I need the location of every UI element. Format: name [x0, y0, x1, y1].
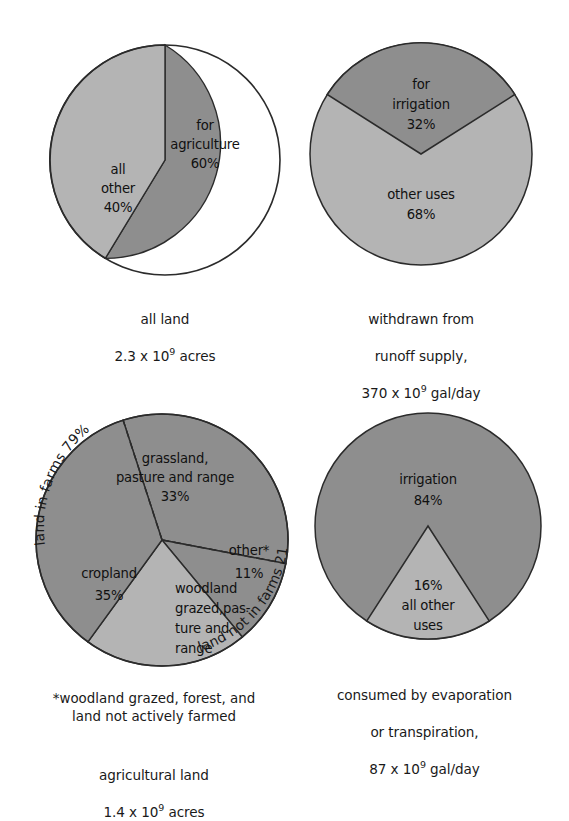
caption-agricultural-land: agricultural land 1.4 x 109 acres	[14, 748, 294, 821]
caption-all-land-unit: acres	[175, 348, 215, 364]
caption-agricultural-land-value: 1.4 x 10	[103, 804, 158, 820]
slice-label-woodland-line1: woodland	[175, 581, 237, 596]
caption-all-land-line1: all land	[35, 310, 295, 328]
slice-label-grassland-line2: pasture and range	[116, 470, 234, 485]
caption-withdrawn-runoff: withdrawn from runoff supply, 370 x 109 …	[296, 292, 546, 420]
caption-all-land-value: 2.3 x 10	[114, 348, 169, 364]
slice-label-all-other-uses-line2: all other	[402, 598, 456, 613]
pie-all-land: for agriculture 60% all other 40%	[50, 42, 280, 274]
slice-label-all-other-line2: other	[101, 181, 136, 196]
slice-label-woodland-line2: grazed,pas-	[175, 601, 251, 616]
caption-withdrawn-runoff-line2: runoff supply,	[296, 347, 546, 365]
caption-agricultural-land-line2: 1.4 x 109 acres	[14, 803, 294, 821]
footnote-agricultural-land: *woodland grazed, forest, and land not a…	[14, 690, 294, 725]
pie-consumed-evaporation: irrigation 84% 16% all other uses	[315, 412, 541, 640]
slice-label-all-other-value: 40%	[104, 200, 133, 215]
chart-panel-withdrawn-runoff: for irrigation 32% other uses 68%	[310, 42, 532, 266]
caption-consumed-evaporation-line1: consumed by evaporation	[292, 686, 557, 704]
caption-agricultural-land-unit: acres	[164, 804, 204, 820]
slice-label-for-agriculture-value: 60%	[191, 156, 220, 171]
caption-consumed-evaporation-line3: 87 x 109 gal/day	[292, 760, 557, 778]
pie-chart-figure: for agriculture 60% all other 40% all la…	[0, 0, 569, 821]
caption-agricultural-land-line1: agricultural land	[14, 766, 294, 784]
slice-label-grassland-value: 33%	[161, 489, 190, 504]
slice-label-woodland-line4: range	[175, 641, 212, 656]
chart-panel-all-land: for agriculture 60% all other 40%	[50, 42, 280, 274]
slice-label-grassland-line1: grassland,	[142, 451, 208, 466]
caption-consumed-evaporation-line2: or transpiration,	[292, 723, 557, 741]
slice-label-woodland-line3: ture and	[175, 621, 229, 636]
slice-label-all-other-line1: all	[111, 162, 126, 177]
slice-label-for-irrigation-line2: irrigation	[392, 97, 450, 112]
slice-label-for-irrigation-value: 32%	[407, 117, 436, 132]
slice-label-all-other-uses-line3: uses	[413, 618, 443, 633]
slice-label-irrigation-line1: irrigation	[399, 472, 457, 487]
slice-label-other-asterisk-value: 11%	[235, 566, 264, 581]
caption-withdrawn-runoff-line3: 370 x 109 gal/day	[296, 384, 546, 402]
slice-label-other-asterisk-line1: other*	[229, 543, 270, 558]
chart-panel-consumed-evaporation: irrigation 84% 16% all other uses	[315, 412, 541, 640]
caption-consumed-evaporation: consumed by evaporation or transpiration…	[292, 668, 557, 796]
pie-agricultural-land: land in farms 79% land not in farms 21% …	[22, 388, 312, 678]
caption-consumed-evaporation-unit: gal/day	[426, 761, 480, 777]
slice-label-cropland-line1: cropland	[81, 566, 137, 581]
caption-withdrawn-runoff-value: 370 x 10	[362, 385, 421, 401]
slice-label-irrigation-value: 84%	[414, 493, 443, 508]
slice-label-for-irrigation-line1: for	[412, 77, 430, 92]
pie-withdrawn-runoff: for irrigation 32% other uses 68%	[310, 42, 532, 266]
chart-panel-agricultural-land: land in farms 79% land not in farms 21% …	[22, 388, 312, 678]
caption-all-land-line2: 2.3 x 109 acres	[35, 347, 295, 365]
caption-withdrawn-runoff-line1: withdrawn from	[296, 310, 546, 328]
slice-label-for-agriculture-line2: agriculture	[170, 137, 239, 152]
slice-label-cropland-value: 35%	[95, 588, 124, 603]
slice-label-all-other-uses-value: 16%	[414, 578, 443, 593]
caption-all-land: all land 2.3 x 109 acres	[35, 292, 295, 384]
caption-withdrawn-runoff-unit: gal/day	[427, 385, 481, 401]
slice-label-for-agriculture-line1: for	[196, 118, 214, 133]
slice-label-other-uses-line1: other uses	[387, 187, 455, 202]
caption-consumed-evaporation-value: 87 x 10	[369, 761, 420, 777]
slice-label-other-uses-value: 68%	[407, 207, 436, 222]
